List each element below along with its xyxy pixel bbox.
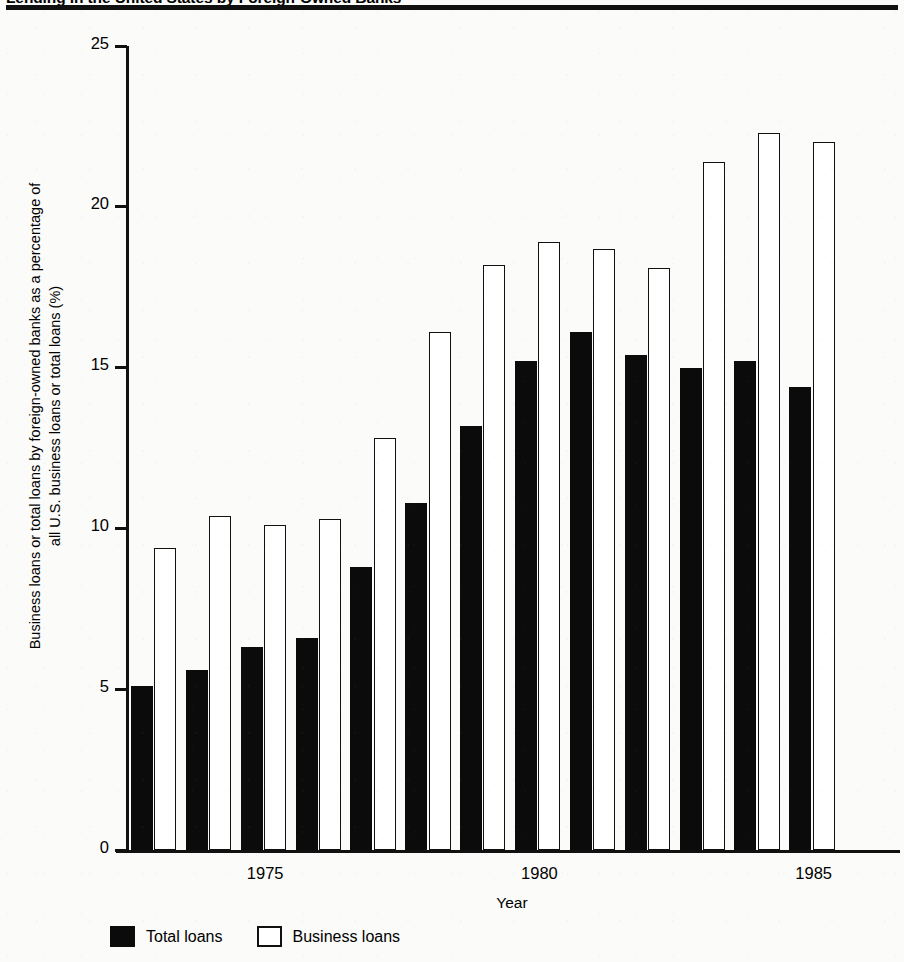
y-tick-label: 0 (100, 838, 109, 857)
bar-business-loans-1976 (319, 519, 341, 850)
bar-total-loans-1974 (186, 670, 208, 850)
plot-area: 0510152025 197519801985 (128, 46, 896, 850)
bar-business-loans-1973 (154, 548, 176, 850)
bar-total-loans-1973 (131, 686, 153, 850)
legend-label: Business loans (293, 928, 401, 946)
y-tick: 25 (115, 45, 127, 48)
bar-business-loans-1978 (429, 332, 451, 850)
bar-total-loans-1984 (734, 361, 756, 850)
x-axis-line (116, 850, 900, 853)
bar-business-loans-1979 (483, 265, 505, 850)
y-tick-label: 20 (91, 194, 109, 213)
legend-swatch-filled-icon (110, 926, 135, 947)
x-axis-title: Year (128, 894, 896, 912)
chart-figure: Lending in the United States by Foreign-… (0, 0, 904, 962)
bar-total-loans-1985 (789, 387, 811, 850)
legend-item-total-loans[interactable]: Total loans (110, 926, 223, 947)
bar-business-loans-1980 (538, 242, 560, 850)
bar-total-loans-1977 (350, 567, 372, 850)
y-tick-label: 25 (91, 34, 109, 53)
y-tick: 15 (115, 366, 127, 369)
title-rule (6, 5, 898, 10)
legend-swatch-hollow-icon (257, 926, 282, 947)
y-axis-title-line-1: Business loans or total loans by foreign… (25, 86, 45, 746)
bar-total-loans-1980 (515, 361, 537, 850)
y-tick-label: 10 (91, 516, 109, 535)
bar-total-loans-1976 (296, 638, 318, 850)
legend-item-business-loans[interactable]: Business loans (257, 926, 401, 947)
bar-business-loans-1984 (758, 133, 780, 850)
y-tick: 20 (115, 205, 127, 208)
y-axis-line (126, 46, 129, 852)
y-tick-label: 15 (91, 355, 109, 374)
bar-total-loans-1983 (680, 368, 702, 850)
bar-total-loans-1982 (625, 355, 647, 850)
bar-total-loans-1978 (405, 503, 427, 850)
y-tick: 5 (115, 688, 127, 691)
bar-total-loans-1981 (570, 332, 592, 850)
y-axis-title: Business loans or total loans by foreign… (25, 86, 65, 746)
bar-total-loans-1979 (460, 426, 482, 851)
legend-label: Total loans (146, 928, 223, 946)
y-tick-label: 5 (100, 677, 109, 696)
bar-business-loans-1981 (593, 249, 615, 850)
chart-title-band: Lending in the United States by Foreign-… (0, 0, 904, 14)
bar-business-loans-1982 (648, 268, 670, 850)
bar-business-loans-1974 (209, 516, 231, 850)
y-tick: 0 (115, 849, 127, 852)
x-tick-label-1975: 1975 (247, 864, 284, 883)
x-tick-label-1980: 1980 (521, 864, 558, 883)
y-tick: 10 (115, 527, 127, 530)
chart-legend: Total loansBusiness loans (110, 926, 400, 947)
x-tick-label-1985: 1985 (795, 864, 832, 883)
bar-business-loans-1983 (703, 162, 725, 850)
y-axis-title-line-2: all U.S. business loans or total loans (… (45, 86, 65, 746)
bar-business-loans-1975 (264, 525, 286, 850)
bar-total-loans-1975 (241, 647, 263, 850)
bar-business-loans-1977 (374, 438, 396, 850)
bar-business-loans-1985 (813, 142, 835, 850)
